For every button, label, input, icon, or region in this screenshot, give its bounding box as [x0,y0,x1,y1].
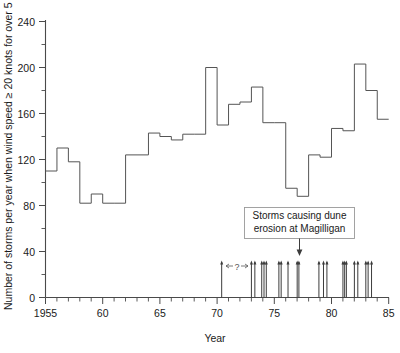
y-ticklabel-120: 120 [17,154,35,166]
y-ticklabel-0: 0 [29,292,35,304]
event-marker-head [265,261,268,265]
y-axis-title: Number of storms per year when wind spee… [2,0,14,310]
x-axis-ticks [46,298,389,305]
x-ticklabel-80: 80 [326,307,338,319]
event-marker-head [287,261,290,265]
event-marker-head [220,261,223,265]
event-marker-head [317,261,320,265]
x-ticklabel-75: 75 [268,307,280,319]
event-marker-head [367,261,370,265]
event-marker-head [322,261,325,265]
event-marker-head [370,261,373,265]
storm-step-line [46,64,389,203]
x-ticklabel-65: 65 [154,307,166,319]
annotation-arrow-head [297,250,303,257]
x-ticklabel-70: 70 [211,307,223,319]
chart-svg: Number of storms per year when wind spee… [0,0,400,353]
event-marker-head [250,261,253,265]
annotation-callout: Storms causing dune erosion at Magilliga… [245,208,355,257]
annotation-line-2: erosion at Magilligan [254,223,346,234]
x-ticklabel-1955: 1955 [34,307,58,319]
storm-frequency-chart: Number of storms per year when wind spee… [0,0,400,353]
event-marker-head [253,261,256,265]
event-marker-head [356,261,359,265]
event-marker-head [325,261,328,265]
y-ticklabel-200: 200 [17,62,35,74]
event-marker-head [353,261,356,265]
y-ticklabel-40: 40 [23,246,35,258]
x-ticklabel-60: 60 [97,307,109,319]
uncertainty-question-mark: ? [234,262,239,272]
annotation-line-1: Storms causing dune [253,210,347,221]
x-axis-title: Year [204,332,226,344]
event-marker-head [280,261,283,265]
y-axis-ticklabels: 240 200 160 120 80 40 0 [17,16,35,304]
y-ticklabel-240: 240 [17,16,35,28]
x-ticklabel-85: 85 [383,307,395,319]
y-axis-title-text: Number of storms per year when wind spee… [2,0,14,310]
x-axis-ticklabels: 1955 60 65 70 75 80 85 [34,307,395,319]
uncertainty-indicator: ? [226,262,248,272]
y-ticklabel-160: 160 [17,108,35,120]
y-axis-ticks [39,22,46,298]
y-ticklabel-80: 80 [23,200,35,212]
